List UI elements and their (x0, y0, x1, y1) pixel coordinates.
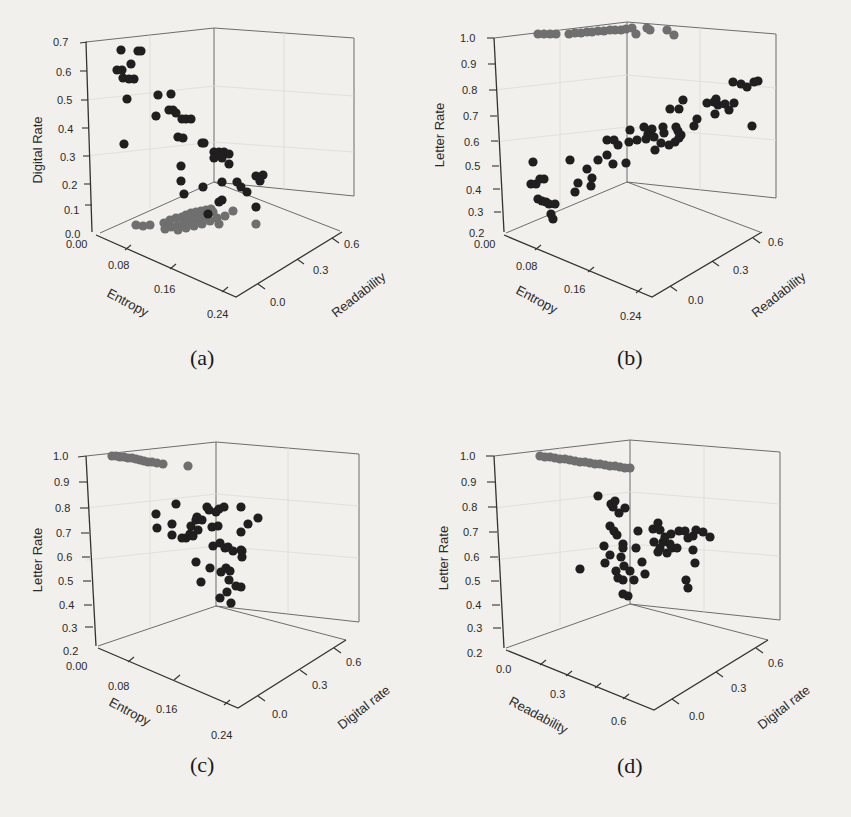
data-point-dark (678, 95, 687, 104)
data-point-dark (613, 140, 622, 149)
data-point-dark (171, 499, 180, 508)
data-point-dark (593, 155, 602, 164)
panel-d-z-tick-labels: 1.0 0.9 0.8 0.7 0.6 0.5 0.4 0.3 0.2 (460, 450, 482, 659)
data-point-dark (243, 519, 252, 528)
data-point-dark (176, 161, 185, 170)
z-tick-label: 0.5 (465, 160, 480, 172)
z-tick-label: 0.4 (58, 123, 73, 135)
data-point-gray (625, 463, 634, 472)
data-point-dark (151, 509, 160, 518)
z-tick-label: 0.2 (467, 647, 482, 659)
data-point-dark (711, 94, 720, 103)
x-tick-label: 0.16 (564, 283, 585, 295)
panel-c-x-tick-labels: 0.00 0.08 0.16 0.24 (66, 660, 232, 741)
panel-b-axes (487, 38, 762, 297)
data-point-dark (689, 121, 698, 130)
z-tick-label: 0.5 (57, 94, 72, 106)
z-tick-label: 0.3 (468, 206, 483, 218)
data-point-dark (153, 90, 162, 99)
panel-b-x-tick-labels: 0.00 0.08 0.16 0.24 (474, 238, 641, 322)
z-tick-label: 0.3 (62, 622, 77, 634)
data-point-dark (236, 582, 245, 591)
panel-b-y-axis-title: Readability (749, 269, 809, 321)
data-point-dark (641, 134, 650, 143)
panel-d-z-axis-title: Letter Rate (436, 526, 451, 590)
data-point-dark (198, 182, 207, 191)
panel-c-y-ticks (258, 648, 341, 701)
data-point-dark (674, 104, 683, 113)
data-point-dark (570, 187, 579, 196)
data-point-dark (599, 541, 608, 550)
data-point-dark (625, 566, 634, 575)
data-point-dark (640, 569, 649, 578)
x-tick-label: 0.24 (207, 308, 228, 320)
z-tick-label: 0.5 (58, 575, 73, 587)
data-point-dark (705, 532, 714, 541)
panel-c-points (107, 451, 262, 607)
data-point-dark (614, 508, 623, 517)
y-tick-label: 0.3 (731, 682, 746, 694)
data-point-dark (575, 564, 584, 573)
panel-d-y-ticks (672, 648, 763, 704)
panel-a-z-axis-title: Digital Rate (30, 116, 45, 183)
z-tick-label: 0.2 (62, 179, 77, 191)
data-point-gray (173, 225, 182, 234)
z-tick-label: 0.5 (465, 575, 480, 587)
x-tick-label: 0.6 (611, 715, 626, 727)
data-point-dark (681, 575, 690, 584)
data-point-gray (220, 211, 229, 220)
data-point-dark (629, 575, 638, 584)
y-tick-label: 0.0 (270, 296, 285, 308)
data-point-dark (672, 543, 681, 552)
y-tick-label: 0.6 (346, 656, 361, 668)
z-tick-label: 0.2 (63, 645, 78, 657)
z-tick-label: 0.6 (56, 66, 71, 78)
data-point-dark (632, 135, 641, 144)
panel-a-z-tick-labels: 0.7 0.6 0.5 0.4 0.3 0.2 0.1 0.0 (53, 36, 80, 240)
data-point-dark (209, 153, 218, 162)
panel-a-x-axis-title: Entropy (105, 285, 152, 320)
data-point-dark (593, 491, 602, 500)
data-point-dark (151, 111, 160, 120)
z-tick-label: 1.0 (460, 32, 475, 44)
data-point-dark (710, 109, 719, 118)
panel-c-axes (78, 456, 346, 708)
y-tick-label: 0.3 (313, 264, 328, 276)
data-point-gray (228, 206, 237, 215)
data-point-gray (631, 29, 640, 38)
data-point-dark (122, 94, 131, 103)
data-point-dark (119, 139, 128, 148)
data-point-dark (242, 187, 251, 196)
data-point-dark (633, 526, 642, 535)
z-tick-label: 0.4 (466, 184, 481, 196)
z-tick-label: 0.7 (53, 36, 68, 48)
data-point-dark (650, 145, 659, 154)
y-tick-label: 0.0 (688, 294, 703, 306)
data-point-dark (616, 552, 625, 561)
panel-d-y-axis-title: Digital rate (755, 682, 813, 732)
y-tick-label: 0.6 (344, 238, 359, 250)
data-point-dark (179, 189, 188, 198)
x-tick-label: 0.16 (156, 703, 177, 715)
z-tick-label: 0.7 (56, 527, 71, 539)
data-point-dark (219, 502, 228, 511)
y-tick-label: 0.6 (768, 657, 783, 669)
y-tick-label: 0.3 (312, 679, 327, 691)
data-point-dark (608, 159, 617, 168)
data-point-dark (528, 157, 537, 166)
data-point-dark (167, 530, 176, 539)
panel-b-caption: (b) (617, 345, 643, 370)
data-point-dark (690, 558, 699, 567)
y-tick-label: 0.3 (733, 264, 748, 276)
data-point-dark (618, 543, 627, 552)
panel-a-x-ticks (125, 245, 228, 292)
panel-a-caption: (a) (190, 345, 214, 370)
data-point-dark (631, 543, 640, 552)
x-tick-label: 0.16 (154, 283, 175, 295)
z-tick-label: 0.6 (57, 551, 72, 563)
data-point-dark (136, 46, 145, 55)
data-point-dark (658, 122, 667, 131)
z-tick-label: 0.3 (467, 622, 482, 634)
data-point-gray (214, 219, 223, 228)
panel-c-y-axis-title: Digital rate (335, 682, 393, 732)
